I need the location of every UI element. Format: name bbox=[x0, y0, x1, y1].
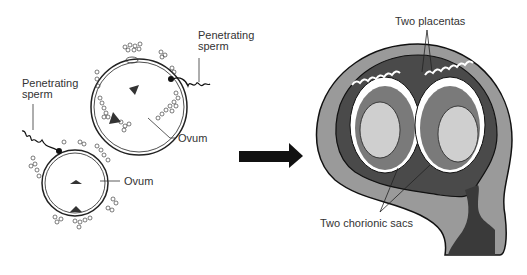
lower-sperm-label: Penetrating sperm bbox=[22, 78, 78, 100]
lower-ovum-label: Ovum bbox=[124, 176, 153, 187]
label-line-2: sperm bbox=[22, 89, 78, 100]
embryo-right bbox=[438, 106, 478, 162]
arrow-right-icon bbox=[239, 143, 303, 168]
chorionic-sacs-label: Two chorionic sacs bbox=[320, 218, 413, 229]
upper-ovum-label: Ovum bbox=[178, 133, 207, 144]
label-line-2: sperm bbox=[198, 41, 254, 52]
diagram-canvas bbox=[0, 0, 527, 275]
upper-sperm-label: Penetrating sperm bbox=[198, 30, 254, 52]
embryo-left bbox=[360, 102, 400, 158]
placentas-label: Two placentas bbox=[395, 16, 465, 27]
